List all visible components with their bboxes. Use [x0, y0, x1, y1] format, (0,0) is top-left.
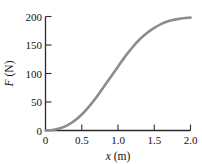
x-tick-label-1p0: 1.0	[111, 134, 125, 146]
y-axis-title-unit: (N)	[3, 60, 16, 76]
x-axis-title-symbol: x	[105, 150, 112, 162]
force-vs-distance-chart: 200 150 100 50 0 0 0.5 1.0 1.5 2.0 x(m) …	[0, 0, 202, 164]
svg-text:x(m): x(m)	[105, 150, 131, 163]
y-tick-label-0: 0	[37, 125, 43, 137]
y-tick-label-50: 50	[31, 96, 43, 108]
chart-canvas: 200 150 100 50 0 0 0.5 1.0 1.5 2.0 x(m) …	[0, 0, 202, 164]
y-axis-title: F(N)	[3, 60, 16, 87]
y-tick-label-150: 150	[26, 39, 43, 51]
x-tick-label-0: 0	[43, 134, 49, 146]
x-tick-label-2p0: 2.0	[184, 134, 198, 146]
x-tick-label-0p5: 0.5	[75, 134, 89, 146]
x-axis-title: x(m)	[105, 150, 131, 163]
y-axis-title-symbol: F	[3, 79, 15, 88]
svg-text:F(N): F(N)	[3, 60, 16, 87]
y-tick-label-100: 100	[26, 68, 43, 80]
x-axis-title-unit: (m)	[114, 150, 131, 163]
chart-background	[0, 0, 202, 164]
x-tick-label-1p5: 1.5	[147, 134, 161, 146]
y-tick-label-200: 200	[26, 11, 43, 23]
